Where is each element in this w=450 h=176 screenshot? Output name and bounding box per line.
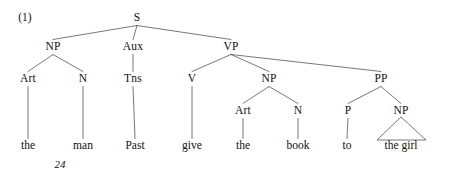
node-vp: VP (223, 41, 238, 53)
branch-pp-to-p (348, 87, 381, 104)
syntax-tree-figure: (1) SNPAuxVPArtNTnsVNPPPArtNPNPthemanPas… (0, 0, 450, 176)
node-v: V (188, 73, 197, 85)
branch-s-to-vp (137, 26, 231, 40)
triangle-np3 (377, 117, 426, 140)
branch-np2-to-n2 (269, 87, 298, 104)
terminal-w_man: man (73, 140, 93, 152)
node-s: S (134, 12, 141, 24)
terminal-w_past: Past (125, 140, 144, 152)
terminal-w_to: to (343, 140, 352, 152)
node-p: P (345, 105, 352, 117)
branch-s-to-aux (133, 26, 137, 40)
terminal-w_the2: the (236, 140, 250, 152)
branch-p-to-w_to (347, 119, 348, 139)
node-np2: NP (261, 73, 276, 85)
node-np3: NP (393, 105, 408, 117)
branch-pp-to-np3 (381, 87, 401, 104)
branch-np1-to-n1 (53, 55, 83, 72)
page-number: 24 (55, 159, 66, 170)
terminal-w_the1: the (21, 140, 35, 152)
branch-np2-to-art2 (243, 87, 269, 104)
branch-tns-to-w_past (133, 87, 135, 139)
example-number: (1) (18, 12, 31, 24)
node-art2: Art (235, 105, 251, 117)
terminal-w_give: give (182, 140, 202, 152)
terminal-w_book: book (287, 140, 310, 152)
node-np1: NP (45, 41, 60, 53)
node-n1: N (79, 73, 88, 85)
node-n2: N (294, 105, 303, 117)
node-aux: Aux (123, 41, 143, 53)
branch-s-to-np1 (53, 26, 137, 40)
branch-np1-to-art1 (28, 55, 53, 72)
node-art1: Art (20, 73, 36, 85)
branch-vp-to-pp (231, 55, 381, 72)
branch-vp-to-v (192, 55, 231, 72)
node-pp: PP (374, 73, 387, 85)
terminal-w_girl: the girl (385, 140, 418, 152)
node-tns: Tns (124, 73, 142, 85)
tree-branch-lines (0, 0, 450, 176)
